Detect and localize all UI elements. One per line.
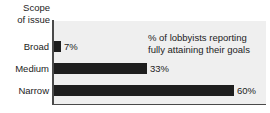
bar-narrow [54, 85, 234, 96]
category-label-narrow: Narrow [0, 85, 49, 96]
bar-medium [54, 63, 147, 74]
category-label-broad: Broad [0, 41, 49, 52]
chart-annotation: % of lobbyists reporting fully attaining… [148, 32, 250, 56]
bar-broad [54, 41, 61, 52]
chart-annotation-line1: % of lobbyists reporting [148, 32, 250, 44]
chart-annotation-line2: fully attaining their goals [148, 44, 250, 56]
y-axis-title: Scope of issue [0, 2, 50, 25]
bar-value-broad: 7% [64, 41, 78, 52]
category-label-medium: Medium [0, 63, 49, 74]
bar-value-medium: 33% [150, 63, 169, 74]
x-axis-line [52, 104, 266, 106]
y-axis-title-line2: of issue [0, 14, 50, 26]
bar-chart-figure: Scope of issue Broad Medium Narrow 7% 33… [0, 0, 270, 113]
y-axis-title-line1: Scope [0, 2, 50, 14]
bar-value-narrow: 60% [237, 85, 256, 96]
